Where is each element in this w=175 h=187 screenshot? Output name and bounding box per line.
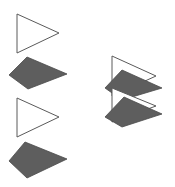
outline-triangle-1 bbox=[17, 14, 59, 53]
outline-triangle-2 bbox=[17, 98, 59, 137]
dark-quad-2 bbox=[9, 142, 67, 178]
right-stack bbox=[105, 56, 162, 127]
shapes-diagram bbox=[0, 0, 175, 187]
dark-quad-1 bbox=[9, 57, 67, 89]
left-column bbox=[9, 14, 67, 178]
